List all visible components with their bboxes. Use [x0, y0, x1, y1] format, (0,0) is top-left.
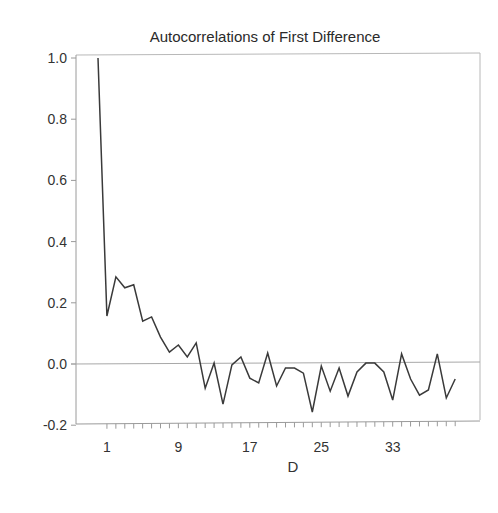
autocorrelation-series-line: [98, 58, 455, 412]
y-tick-label: 0.6: [48, 172, 68, 188]
x-tick-label: 1: [103, 439, 111, 455]
y-tick-label: 0.4: [48, 234, 68, 250]
x-tick-label: 33: [385, 439, 401, 455]
y-tick-label: -0.2: [43, 417, 67, 433]
x-tick-label: 9: [174, 439, 182, 455]
y-axis: 1.00.80.60.40.20.0-0.2: [43, 50, 76, 433]
y-tick-label: 0.0: [48, 356, 68, 372]
autocorrelation-chart: Autocorrelations of First Difference 1.0…: [0, 0, 498, 513]
x-tick-label: 25: [313, 439, 329, 455]
x-tick-label: 17: [242, 439, 258, 455]
chart-title: Autocorrelations of First Difference: [150, 28, 381, 45]
plot-frame-border: [76, 53, 480, 420]
x-axis: 19172533: [76, 421, 480, 455]
x-axis-label: D: [288, 458, 299, 475]
y-tick-label: 1.0: [48, 50, 68, 66]
plot-frame: [76, 53, 480, 420]
y-tick-label: 0.2: [48, 295, 68, 311]
y-tick-label: 0.8: [48, 111, 68, 127]
zero-reference-line: [71, 362, 480, 364]
